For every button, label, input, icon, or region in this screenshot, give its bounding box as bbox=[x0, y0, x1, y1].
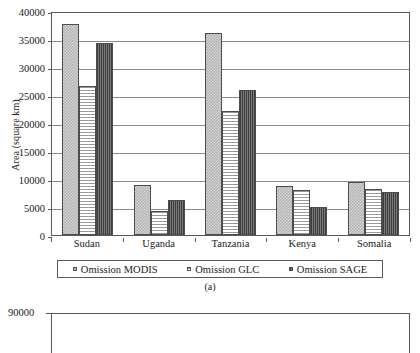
legend-item: Omission SAGE bbox=[289, 264, 367, 275]
x-axis-tick-label: Uganda bbox=[123, 238, 195, 249]
bar bbox=[365, 189, 382, 235]
legend-item: Omission MODIS bbox=[73, 264, 158, 275]
bar bbox=[62, 24, 79, 235]
x-axis-tick-mark bbox=[338, 238, 339, 242]
bar bbox=[79, 86, 96, 235]
bar bbox=[222, 111, 239, 235]
figure-b-ytick-label: 90000 bbox=[8, 308, 34, 319]
y-axis-title-text: Area (square km) bbox=[10, 99, 21, 171]
bar bbox=[348, 182, 365, 235]
x-axis-tick-mark bbox=[266, 238, 267, 242]
bar bbox=[151, 211, 168, 235]
x-axis-tick-label: Tanzania bbox=[195, 238, 267, 249]
bar bbox=[382, 192, 399, 235]
bar-group bbox=[195, 13, 266, 235]
y-axis-tick-label: 15000 bbox=[19, 148, 45, 159]
y-axis-tick-label: 10000 bbox=[19, 176, 45, 187]
x-axis-tick-labels: SudanUgandaTanzaniaKenyaSomalia bbox=[51, 238, 410, 249]
y-axis-tick-label: 30000 bbox=[19, 64, 45, 75]
bar bbox=[293, 190, 310, 235]
x-axis-tick-label: Somalia bbox=[338, 238, 410, 249]
x-axis-tick-mark bbox=[195, 238, 196, 242]
figure-a: Area (square km) 05000100001500020000250… bbox=[0, 0, 420, 292]
x-axis-tick-mark bbox=[410, 238, 411, 242]
x-axis-tick-mark bbox=[123, 238, 124, 242]
bar bbox=[276, 186, 293, 235]
bar-group bbox=[123, 13, 194, 235]
x-axis-tick-label: Sudan bbox=[51, 238, 123, 249]
x-axis-tick-mark bbox=[51, 238, 52, 242]
y-axis-tick-label: 0 bbox=[40, 232, 45, 243]
bar bbox=[134, 185, 151, 235]
figure-b-partial: 90000 bbox=[0, 300, 420, 326]
legend-label: Omission SAGE bbox=[297, 264, 367, 275]
y-axis-tick-label: 35000 bbox=[19, 36, 45, 47]
bar bbox=[96, 43, 113, 235]
legend-swatch-icon bbox=[289, 267, 293, 271]
bar-group bbox=[52, 13, 123, 235]
y-axis-tick-label: 5000 bbox=[24, 204, 45, 215]
chart-legend: Omission MODISOmission GLCOmission SAGE bbox=[57, 260, 383, 278]
legend-swatch-icon bbox=[73, 267, 77, 271]
bar-group bbox=[266, 13, 337, 235]
bar bbox=[168, 200, 185, 235]
bar bbox=[205, 33, 222, 235]
legend-swatch-icon bbox=[187, 267, 191, 271]
bar-groups bbox=[52, 13, 409, 235]
y-axis-title: Area (square km) bbox=[0, 0, 9, 60]
figure-caption: (a) bbox=[0, 281, 420, 292]
figure-b-plot-area bbox=[51, 313, 410, 353]
y-axis-tick-label: 25000 bbox=[19, 92, 45, 103]
y-axis-tick-label: 20000 bbox=[19, 120, 45, 131]
bar bbox=[310, 207, 327, 235]
legend-label: Omission GLC bbox=[195, 264, 259, 275]
plot-area: 0500010000150002000025000300003500040000 bbox=[51, 12, 410, 236]
legend-item: Omission GLC bbox=[187, 264, 259, 275]
legend-label: Omission MODIS bbox=[81, 264, 158, 275]
bar bbox=[239, 90, 256, 235]
x-axis-tick-label: Kenya bbox=[266, 238, 338, 249]
y-axis-tick-label: 40000 bbox=[19, 8, 45, 19]
bar-group bbox=[338, 13, 409, 235]
